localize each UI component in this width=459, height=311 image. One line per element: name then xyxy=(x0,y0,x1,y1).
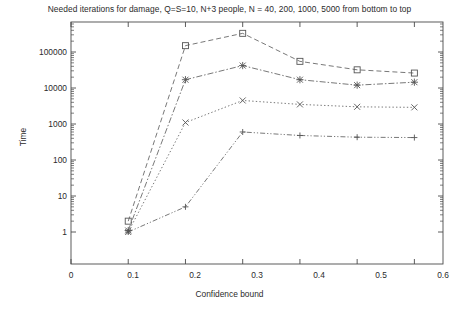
data-point-marker xyxy=(411,79,418,86)
chart-figure: Needed iterations for damage, Q=S=10, N+… xyxy=(0,0,459,311)
data-point-marker xyxy=(296,76,303,83)
data-series xyxy=(125,129,417,235)
data-point-marker xyxy=(182,204,188,210)
axis-ticks xyxy=(71,22,443,264)
data-point-marker xyxy=(354,134,360,140)
data-point-marker xyxy=(240,129,246,135)
data-series-group xyxy=(125,30,418,235)
data-series xyxy=(125,30,417,224)
data-point-marker xyxy=(297,101,303,107)
data-point-marker xyxy=(239,62,246,69)
data-point-marker xyxy=(182,120,188,126)
plot-area xyxy=(0,0,459,311)
data-point-marker xyxy=(411,104,417,110)
axes-frame xyxy=(71,22,443,264)
data-series xyxy=(125,62,418,234)
data-point-marker xyxy=(182,76,189,83)
data-point-marker xyxy=(125,218,131,224)
data-point-marker xyxy=(240,97,246,103)
data-point-marker xyxy=(354,82,361,89)
data-point-marker xyxy=(411,135,417,141)
data-point-marker xyxy=(354,104,360,110)
data-point-marker xyxy=(297,132,303,138)
